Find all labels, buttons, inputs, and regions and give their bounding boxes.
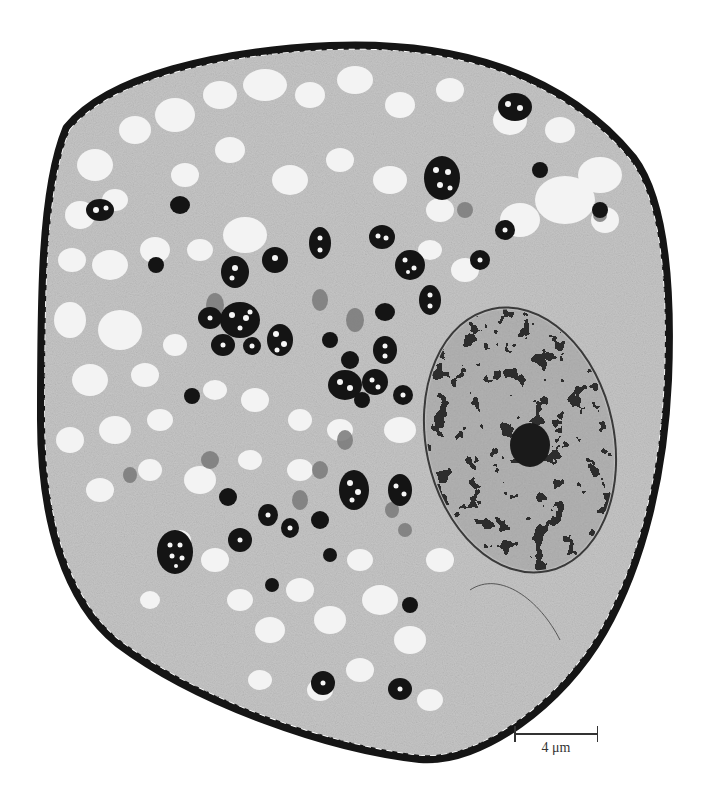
nucleolus [510, 423, 550, 467]
cytoplasm [0, 0, 711, 803]
scale-bar-line [514, 733, 598, 735]
scale-bar: 4 μm [514, 726, 598, 766]
scale-bar-label: 4 μm [514, 740, 598, 756]
micrograph-image [0, 0, 711, 803]
